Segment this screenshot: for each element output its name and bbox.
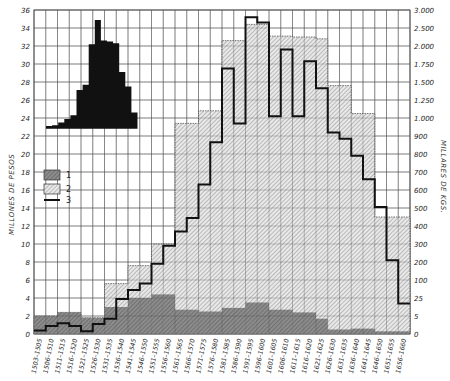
x-tick-label: 1546–1550	[136, 338, 149, 374]
right-tick-label: 200	[414, 259, 428, 267]
x-tick-label: 1641–1645	[359, 338, 372, 374]
x-axis-labels: 1503–15051506–15101511–15151516–15201521…	[30, 338, 407, 374]
x-tick-label: 1506–1510	[42, 338, 55, 374]
right-tick-label: 1.500	[414, 79, 435, 87]
x-tick-label: 1581–1585	[218, 338, 231, 374]
right-tick-label: 600	[414, 187, 428, 195]
x-tick-label: 1526–1530	[89, 338, 102, 374]
x-tick-label: 1646–1650	[371, 338, 384, 374]
left-axis-title: MILLONES DE PESOS	[8, 154, 16, 235]
left-tick-label: 0	[26, 331, 31, 339]
left-tick-label: 4	[26, 295, 30, 303]
x-tick-label: 1656–1660	[394, 338, 407, 374]
left-tick-label: 8	[26, 259, 31, 267]
x-tick-label: 1591–1595	[241, 338, 254, 374]
x-tick-label: 1611–1615	[288, 338, 301, 374]
x-tick-label: 1556–1560	[159, 338, 172, 374]
x-tick-label: 1576–1580	[206, 338, 219, 374]
right-tick-label: 5	[414, 313, 419, 321]
x-tick-label: 1586–1590	[230, 338, 243, 374]
left-tick-label: 26	[21, 97, 30, 105]
x-tick-label: 1551–1555	[147, 338, 160, 374]
left-tick-label: 16	[21, 187, 30, 195]
x-tick-label: 1561–1565	[171, 338, 184, 374]
left-tick-label: 32	[21, 43, 30, 51]
left-tick-label: 24	[21, 115, 30, 123]
x-tick-label: 1566–1570	[183, 338, 196, 374]
right-tick-label: 800	[414, 151, 428, 159]
x-tick-label: 1651–1655	[382, 338, 395, 374]
left-axis-ticks: 024681012141618202224262830323436	[21, 7, 30, 339]
right-tick-label: 700	[414, 169, 428, 177]
right-tick-label: 1.250	[414, 97, 435, 105]
x-tick-label: 1511–1515	[53, 338, 66, 374]
right-tick-label: 500	[414, 205, 428, 213]
left-tick-label: 22	[21, 133, 30, 141]
left-tick-label: 2	[26, 313, 31, 321]
x-tick-label: 1616–1620	[300, 338, 313, 374]
x-tick-label: 1536–1540	[112, 338, 125, 374]
right-tick-label: 2.500	[414, 25, 435, 33]
left-tick-label: 20	[21, 151, 30, 159]
right-tick-label: 25	[414, 295, 423, 303]
legend-label-2: 2	[66, 185, 71, 194]
left-tick-label: 18	[21, 169, 30, 177]
left-tick-label: 28	[21, 79, 30, 87]
left-tick-label: 34	[21, 25, 30, 33]
right-tick-label: 900	[414, 133, 428, 141]
right-tick-label: 100	[414, 277, 428, 285]
left-tick-label: 6	[26, 277, 31, 285]
x-tick-label: 1571–1575	[194, 338, 207, 374]
right-tick-label: 2.000	[414, 43, 435, 51]
legend-swatch-1	[44, 170, 60, 180]
x-tick-label: 1621–1625	[312, 338, 325, 374]
x-tick-label: 1541–1545	[124, 338, 137, 374]
x-tick-label: 1636–1640	[347, 338, 360, 374]
x-tick-label: 1516–1520	[65, 338, 78, 374]
left-tick-label: 30	[21, 61, 30, 69]
x-tick-label: 1503–1505	[30, 338, 43, 374]
right-axis-ticks: 05251002003004005006007008009001.0001.25…	[414, 7, 435, 339]
x-tick-label: 1601–1605	[265, 338, 278, 374]
right-tick-label: 1.000	[414, 115, 435, 123]
x-tick-label: 1531–1535	[100, 338, 113, 374]
x-tick-label: 1596–1600	[253, 338, 266, 374]
x-tick-label: 1631–1635	[335, 338, 348, 374]
right-axis-title: MILLARES DE KGS.	[439, 140, 447, 213]
legend: 1 2 3	[44, 170, 71, 205]
legend-label-3: 3	[66, 196, 71, 205]
right-tick-label: 300	[414, 241, 428, 249]
right-tick-label: 0	[414, 331, 419, 339]
x-tick-label: 1521–1525	[77, 338, 90, 374]
x-tick-label: 1606–1610	[277, 338, 290, 374]
legend-swatch-2	[44, 184, 60, 194]
x-tick-label: 1626–1630	[324, 338, 337, 374]
chart: 024681012141618202224262830323436 052510…	[0, 0, 450, 381]
left-tick-label: 14	[21, 205, 30, 213]
left-tick-label: 12	[21, 223, 30, 231]
right-tick-label: 1.750	[414, 61, 435, 69]
legend-label-1: 1	[66, 171, 71, 180]
left-tick-label: 10	[21, 241, 30, 249]
right-tick-label: 3.000	[414, 7, 435, 15]
right-tick-label: 400	[414, 223, 428, 231]
left-tick-label: 36	[21, 7, 30, 15]
